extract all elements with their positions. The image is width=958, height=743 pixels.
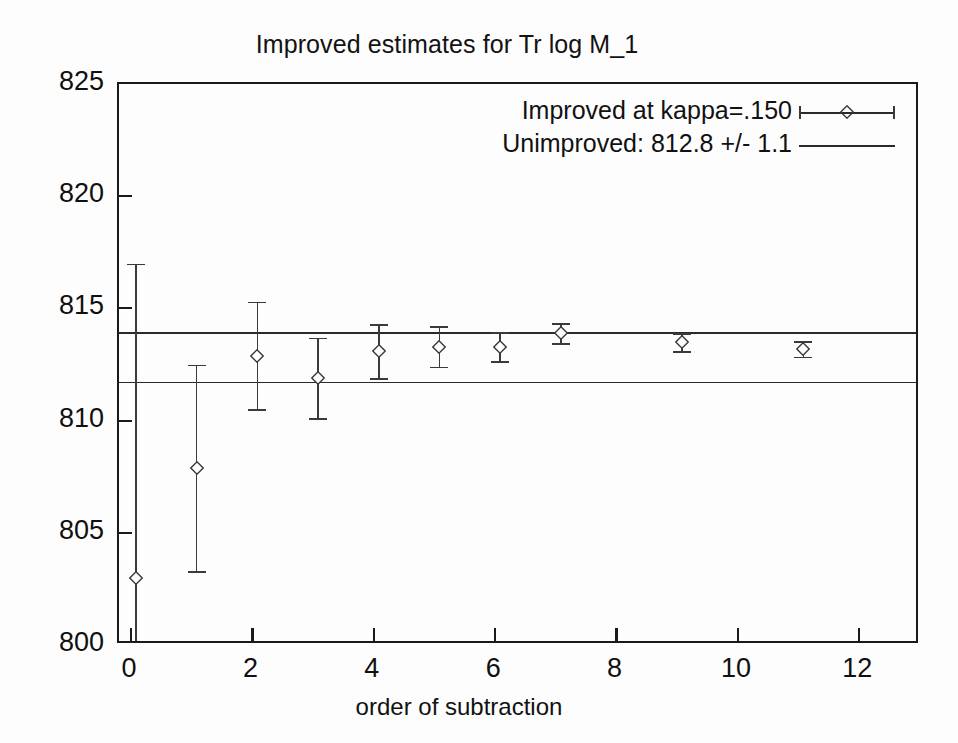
x-axis-tick-label: 2 — [211, 655, 291, 682]
legend-label-unimproved: Unimproved: 812.8 +/- 1.1 — [502, 129, 792, 158]
y-axis-tick — [119, 195, 132, 197]
x-axis-tick-label: 8 — [575, 655, 655, 682]
diamond-marker-icon — [311, 371, 325, 385]
legend-entry-unimproved: Unimproved: 812.8 +/- 1.1 — [427, 129, 897, 162]
x-axis-tick — [494, 628, 496, 641]
error-bar-cap-lower — [370, 378, 388, 380]
legend-sample-line-icon — [797, 129, 897, 162]
error-bar-cap-upper — [188, 365, 206, 367]
error-bar-cap-lower — [794, 357, 812, 359]
error-bar-cap-upper — [370, 324, 388, 326]
chart-title: Improved estimates for Tr log M_1 — [0, 30, 926, 59]
diamond-marker-icon — [675, 335, 689, 349]
y-axis-tick — [119, 532, 132, 534]
x-axis-tick — [737, 628, 739, 641]
error-bar-cap-lower — [309, 418, 327, 420]
error-bar-cap-upper — [248, 302, 266, 304]
x-axis-tick-label: 0 — [89, 655, 169, 682]
x-axis-title: order of subtraction — [0, 693, 938, 721]
error-bar-cap-lower — [248, 409, 266, 411]
band-lower-line — [119, 382, 916, 384]
x-axis-tick-label: 4 — [332, 655, 412, 682]
diamond-marker-icon — [554, 326, 568, 340]
x-axis-tick-label: 6 — [453, 655, 533, 682]
error-bar-cap-lower — [491, 361, 509, 363]
legend-label-improved: Improved at kappa=.150 — [522, 96, 792, 125]
error-bar-cap-upper — [491, 332, 509, 334]
chart-legend: Improved at kappa=.150 Unimproved: 812.8… — [427, 96, 897, 162]
legend-sample-errorbar-diamond-icon — [797, 96, 897, 129]
y-axis-tick-label: 805 — [4, 517, 104, 544]
diamond-marker-icon — [129, 571, 143, 585]
diamond-marker-icon — [432, 340, 446, 354]
chart-figure: Improved estimates for Tr log M_1 800805… — [0, 0, 958, 743]
diamond-marker-icon — [190, 461, 204, 475]
error-bar-cap-upper — [309, 338, 327, 340]
diamond-marker-icon — [796, 342, 810, 356]
y-axis-tick — [119, 307, 132, 309]
diamond-marker-icon — [250, 349, 264, 363]
x-axis-tick — [130, 628, 132, 641]
error-bar-cap-lower — [188, 571, 206, 573]
y-axis-tick-label: 820 — [4, 180, 104, 207]
error-bar-cap-lower — [552, 343, 570, 345]
band-upper-line — [119, 332, 916, 334]
plot-area — [117, 82, 918, 643]
x-axis-tick-label: 10 — [696, 655, 776, 682]
plot-canvas — [119, 84, 916, 641]
x-axis-tick — [615, 628, 617, 641]
y-axis-tick-label: 810 — [4, 405, 104, 432]
error-bar-cap-upper — [552, 323, 570, 325]
diamond-marker-icon — [493, 340, 507, 354]
y-axis-tick — [119, 420, 132, 422]
x-axis-tick — [858, 628, 860, 641]
error-bar-cap-upper — [127, 264, 145, 266]
y-axis-tick-label: 825 — [4, 68, 104, 95]
x-axis-tick — [251, 628, 253, 641]
error-bar-cap-lower — [673, 351, 691, 353]
error-bar-cap-upper — [430, 326, 448, 328]
error-bar-cap-lower — [430, 367, 448, 369]
x-axis-tick-label: 12 — [817, 655, 897, 682]
legend-entry-improved: Improved at kappa=.150 — [427, 96, 897, 129]
y-axis-tick-label: 800 — [4, 629, 104, 656]
x-axis-tick — [373, 628, 375, 641]
diamond-marker-icon — [372, 344, 386, 358]
y-axis-tick-label: 815 — [4, 292, 104, 319]
